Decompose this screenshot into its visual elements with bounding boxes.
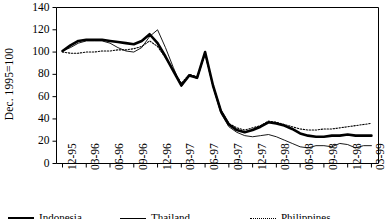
data-series-line	[63, 41, 372, 130]
y-tick-label: 40	[38, 113, 50, 125]
y-tick-marks	[53, 8, 57, 164]
legend-swatch	[8, 217, 34, 219]
x-tick-label: 09-97	[233, 143, 245, 170]
y-tick-label: 120	[32, 24, 49, 36]
y-tick-label: 0	[44, 158, 50, 170]
data-series-line	[63, 34, 372, 137]
data-series-group	[63, 30, 372, 148]
x-tick-label: 12-95	[67, 143, 79, 170]
x-tick-label: 03-98	[280, 143, 292, 170]
data-series-line	[63, 30, 372, 148]
legend-label: Philippines	[281, 211, 331, 219]
chart-figure: Dec. 1995=100 020406080100120140 12-9503…	[0, 0, 392, 219]
x-tick-label: 03-97	[185, 143, 197, 170]
y-tick-label: 100	[32, 46, 49, 58]
x-tick-label: 09-96	[138, 143, 150, 170]
legend-item: Thailand	[120, 212, 190, 219]
x-tick-label: 06-97	[209, 143, 221, 170]
legend-item: Indonesia	[8, 212, 82, 219]
x-tick-label: 09-98	[328, 143, 340, 170]
legend-item: Philippines	[250, 212, 331, 219]
legend-label: Thailand	[151, 211, 190, 219]
legend-swatch	[120, 218, 146, 219]
y-tick-label: 20	[38, 135, 50, 147]
x-tick-label: 06-98	[304, 143, 316, 170]
x-tick-label: 12-97	[257, 143, 269, 170]
x-tick-label: 06-96	[114, 143, 126, 170]
legend-label: Indonesia	[39, 211, 82, 219]
axes	[57, 8, 379, 164]
legend-swatch	[250, 218, 276, 219]
x-tick-label: 12-96	[162, 143, 174, 170]
y-tick-label: 80	[38, 68, 50, 80]
x-tick-label: 12-98	[352, 143, 364, 170]
x-tick-label: 03-99	[375, 143, 387, 170]
y-tick-label: 140	[32, 2, 49, 14]
plot-canvas	[0, 0, 392, 219]
x-tick-label: 03-96	[90, 143, 102, 170]
y-tick-label: 60	[38, 91, 50, 103]
